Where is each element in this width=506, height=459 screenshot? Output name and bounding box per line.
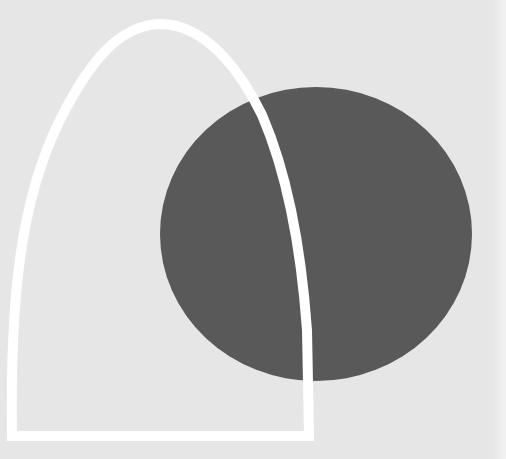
page-edge bbox=[492, 0, 506, 459]
dark-circle bbox=[160, 87, 472, 381]
artwork-shapes bbox=[0, 0, 506, 459]
abstract-artwork bbox=[0, 0, 506, 459]
